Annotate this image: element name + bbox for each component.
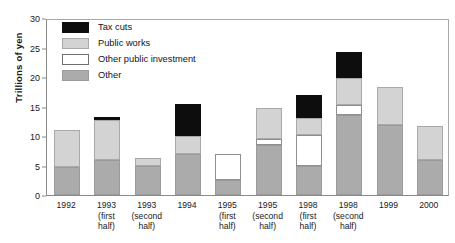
bar-segment-other <box>336 115 362 195</box>
bar-segment-other <box>94 160 120 195</box>
bar-segment-other <box>175 154 201 195</box>
bar-segment-pw <box>135 158 161 165</box>
bar-1995-second-half- <box>256 18 282 195</box>
bar-1999 <box>377 18 403 195</box>
bar-segment-pw <box>377 87 403 125</box>
bar-segment-pw <box>256 108 282 139</box>
bar-segment-opi <box>296 135 322 166</box>
bar-segment-pw <box>296 118 322 135</box>
bar-segment-pw <box>417 126 443 160</box>
legend-item: Public works <box>62 36 196 51</box>
bar-segment-other <box>417 160 443 195</box>
bar-segment-opi <box>215 154 241 181</box>
legend-swatch-other <box>62 70 89 81</box>
stacked-bar-chart: Trillions of yen 051015202530 19921993(f… <box>0 0 455 243</box>
legend-item: Tax cuts <box>62 20 196 35</box>
legend-swatch-tax <box>62 22 89 33</box>
bar-segment-other <box>54 167 80 195</box>
legend-swatch-opi <box>62 54 89 65</box>
legend-item: Other <box>62 68 196 83</box>
bar-segment-opi <box>256 139 282 145</box>
legend-label: Public works <box>98 38 150 48</box>
x-axis-label-line: (second <box>321 211 375 222</box>
legend-label: Other public investment <box>98 54 196 64</box>
x-axis-label: 2000 <box>402 200 455 211</box>
bar-1998-second-half- <box>336 18 362 195</box>
bar-segment-other <box>256 145 282 195</box>
bar-segment-tax <box>296 95 322 118</box>
x-axis-label-line: (second <box>120 211 174 222</box>
x-axis-label-line: 2000 <box>402 200 455 211</box>
bar-segment-pw <box>175 136 201 154</box>
bar-segment-other <box>215 180 241 195</box>
bar-segment-tax <box>94 117 120 120</box>
bar-segment-other <box>296 166 322 196</box>
bar-segment-tax <box>336 52 362 78</box>
legend-item: Other public investment <box>62 52 196 67</box>
bar-segment-tax <box>175 104 201 136</box>
bar-segment-pw <box>94 120 120 160</box>
bar-1998-first-half- <box>296 18 322 195</box>
bar-segment-pw <box>336 78 362 105</box>
x-axis-label-line: half) <box>321 221 375 232</box>
bar-segment-pw <box>54 130 80 167</box>
bar-segment-opi <box>336 105 362 114</box>
legend-swatch-pw <box>62 38 89 49</box>
bar-segment-other <box>135 166 161 196</box>
chart-legend: Tax cutsPublic worksOther public investm… <box>62 20 196 84</box>
x-axis-label-line: half) <box>120 221 174 232</box>
bar-1995-first-half- <box>215 18 241 195</box>
legend-label: Tax cuts <box>98 22 132 32</box>
bar-segment-other <box>377 125 403 195</box>
legend-label: Other <box>98 70 121 80</box>
bar-2000 <box>417 18 443 195</box>
